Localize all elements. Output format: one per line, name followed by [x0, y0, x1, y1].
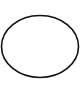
ellipse-outline	[2, 16, 79, 78]
canvas	[0, 0, 80, 87]
